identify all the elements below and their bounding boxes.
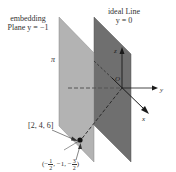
z-axis-label: z xyxy=(114,47,117,56)
pi-label: π xyxy=(51,55,55,64)
embedded-point-label: (−12, −1, −32) xyxy=(42,158,79,171)
ideal-plane xyxy=(94,17,131,162)
embedded-point-mid: , −1, − xyxy=(53,160,71,168)
embedding-plane-label-line2: Plane y = −1 xyxy=(2,23,54,32)
homogeneous-point-label: [2, 4, 6] xyxy=(28,121,53,130)
embedding-plane-label-line1: embedding xyxy=(2,14,54,23)
ideal-line-label-line1: ideal Line xyxy=(100,7,148,16)
ideal-line-label-line2: y = 0 xyxy=(100,16,148,25)
embedding-plane-label: embedding Plane y = −1 xyxy=(2,14,54,32)
embedded-point xyxy=(77,137,82,142)
ideal-line-label: ideal Line y = 0 xyxy=(100,7,148,25)
y-axis-arrowhead xyxy=(152,86,158,91)
embedded-leader-extension xyxy=(64,141,79,150)
origin-label: O xyxy=(115,75,120,84)
embedded-point-close: ) xyxy=(77,160,79,168)
y-axis-label: y xyxy=(160,86,163,95)
x-axis-label: x xyxy=(142,115,145,124)
